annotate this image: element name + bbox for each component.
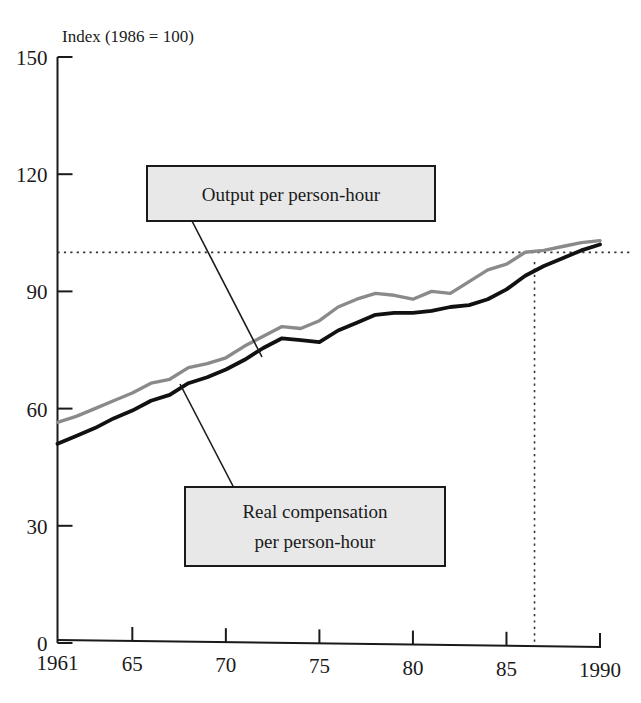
callout-compensation-label-line1: Real compensation — [242, 501, 388, 522]
x-tick-label-1970: 70 — [215, 653, 236, 677]
line-chart: Index (1986 = 100) 0306090120150 1961657… — [0, 0, 641, 703]
y-tick-label-60: 60 — [27, 398, 48, 422]
x-tick-label-1980: 80 — [402, 656, 423, 680]
y-tick-label-120: 120 — [16, 163, 48, 187]
y-axis-tick-labels: 0306090120150 — [16, 46, 48, 656]
x-tick-label-1975: 75 — [309, 654, 330, 678]
series-real-compensation-per-person-hour — [58, 245, 601, 444]
callout-output-label: Output per person-hour — [202, 184, 381, 205]
chart-axis-title: Index (1986 = 100) — [62, 27, 194, 46]
leader-line-output — [192, 221, 262, 357]
x-axis-tick-labels: 196165707580851990 — [37, 651, 622, 682]
x-tick-label-1985: 85 — [496, 657, 517, 681]
y-tick-label-30: 30 — [27, 515, 48, 539]
x-tick-label-1990: 1990 — [579, 658, 621, 682]
x-axis-line — [58, 640, 602, 647]
callout-compensation-label-line2: per person-hour — [255, 531, 376, 552]
figure-container: Index (1986 = 100) 0306090120150 1961657… — [0, 0, 641, 703]
y-tick-label-150: 150 — [16, 46, 48, 70]
y-tick-label-90: 90 — [27, 280, 48, 304]
x-tick-label-1965: 65 — [122, 652, 143, 676]
y-axis-ticks — [58, 57, 73, 643]
callout-compensation-box — [185, 487, 445, 566]
callout-real-compensation-per-person-hour[interactable]: Real compensation per person-hour — [185, 487, 445, 566]
callout-output-per-person-hour[interactable]: Output per person-hour — [147, 166, 435, 221]
x-tick-label-1961: 1961 — [37, 651, 79, 675]
series-output-per-person-hour — [58, 241, 601, 423]
leader-line-compensation — [180, 384, 234, 488]
